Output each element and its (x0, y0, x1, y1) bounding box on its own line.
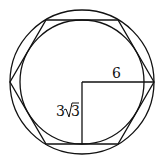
apothem-label: 3 3 (56, 103, 80, 119)
svg-text:3: 3 (56, 103, 65, 119)
radius-label: 6 (112, 65, 121, 81)
hexagon-circles-figure: 6 3 3 (0, 0, 163, 168)
geometry-diagram: 6 3 3 (0, 0, 163, 168)
svg-text:3: 3 (71, 103, 80, 119)
